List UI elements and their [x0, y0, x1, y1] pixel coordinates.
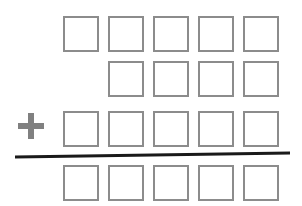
- addition-worksheet: [0, 0, 302, 206]
- addition-bar: [0, 0, 302, 206]
